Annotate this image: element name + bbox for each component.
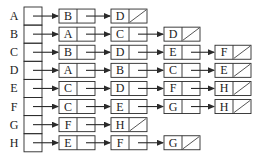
list-node: E xyxy=(164,45,214,59)
list-node: B xyxy=(59,9,110,23)
vertex-label: C xyxy=(10,45,18,59)
node-value: E xyxy=(116,100,123,114)
node-value: H xyxy=(116,118,125,132)
node-value: A xyxy=(64,63,73,77)
adjacency-row: DABCE xyxy=(10,61,251,79)
node-value: A xyxy=(64,27,73,41)
adjacency-row: HEFG xyxy=(10,134,200,152)
node-value: F xyxy=(117,136,124,150)
node-value: D xyxy=(169,27,178,41)
node-value: E xyxy=(220,63,227,77)
list-node: D xyxy=(111,81,163,95)
adjacency-row: GFH xyxy=(10,116,147,134)
list-node: C xyxy=(111,27,163,41)
node-value: F xyxy=(65,118,72,132)
list-node: F xyxy=(215,45,251,59)
list-node: H xyxy=(215,100,251,114)
node-value: B xyxy=(64,45,72,59)
node-value: E xyxy=(169,45,176,59)
list-node: F xyxy=(59,118,110,132)
node-value: H xyxy=(220,81,229,95)
node-value: C xyxy=(64,81,72,95)
vertex-label: E xyxy=(10,81,17,95)
node-value: D xyxy=(116,9,125,23)
node-value: G xyxy=(169,100,178,114)
list-node: C xyxy=(164,63,214,77)
node-value: C xyxy=(116,27,124,41)
list-node: G xyxy=(164,100,214,114)
list-node: C xyxy=(59,81,110,95)
list-node: A xyxy=(59,27,110,41)
adjacency-row: CBDEF xyxy=(10,43,251,61)
node-value: F xyxy=(170,81,177,95)
list-node: E xyxy=(59,136,110,150)
list-node: H xyxy=(215,81,251,95)
vertex-label: D xyxy=(10,63,19,77)
list-node: F xyxy=(164,81,214,95)
node-value: E xyxy=(64,136,71,150)
list-node: D xyxy=(111,45,163,59)
vertex-label: F xyxy=(11,100,18,114)
node-value: B xyxy=(64,9,72,23)
list-node: G xyxy=(164,136,200,150)
list-node: A xyxy=(59,63,110,77)
list-node: F xyxy=(111,136,163,150)
vertex-label: B xyxy=(10,27,18,41)
node-value: D xyxy=(116,45,125,59)
list-node: C xyxy=(59,100,110,114)
vertex-label: G xyxy=(10,118,19,132)
adjacency-list-diagram: ABDBACDCBDEFDABCEECDFHFCEGHGFHHEFG xyxy=(0,0,260,161)
list-node: D xyxy=(164,27,200,41)
vertex-label: H xyxy=(10,136,19,150)
vertex-label: A xyxy=(10,9,19,23)
adjacency-row: ABD xyxy=(10,7,147,25)
list-node: E xyxy=(111,100,163,114)
adjacency-row: FCEGH xyxy=(11,98,251,116)
node-value: C xyxy=(169,63,177,77)
list-node: B xyxy=(111,63,163,77)
node-value: B xyxy=(116,63,124,77)
adjacency-row: BACD xyxy=(10,25,200,43)
list-node: B xyxy=(59,45,110,59)
node-value: G xyxy=(169,136,178,150)
node-value: H xyxy=(220,100,229,114)
list-node: D xyxy=(111,9,147,23)
list-node: E xyxy=(215,63,251,77)
node-value: D xyxy=(116,81,125,95)
node-value: C xyxy=(64,100,72,114)
list-node: H xyxy=(111,118,147,132)
node-value: F xyxy=(221,45,228,59)
adjacency-row: ECDFH xyxy=(10,79,251,97)
